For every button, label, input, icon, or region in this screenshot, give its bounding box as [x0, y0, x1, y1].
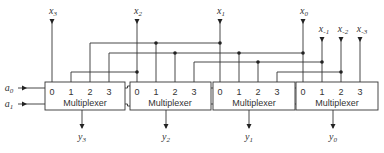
arrow-right-icon [22, 102, 27, 107]
output-lines [80, 110, 336, 129]
mux-label: Multiplexer [232, 98, 276, 108]
junction-dot [320, 60, 324, 64]
arrow-right-icon [22, 86, 27, 91]
svg-text:1: 1 [68, 87, 73, 97]
junction-dot [173, 51, 177, 55]
junction-dot [237, 51, 241, 55]
svg-text:2: 2 [255, 87, 260, 97]
arrow-down-icon [301, 19, 306, 24]
shifter-diagram: 0 1 2 3 Multiplexer 0 1 2 3 Multiplexer … [0, 0, 384, 153]
arrow-down-icon [320, 37, 325, 42]
svg-text:3: 3 [191, 87, 196, 97]
output-labels: y3 y2 y1 y0 [77, 131, 337, 144]
mux-label: Multiplexer [148, 98, 192, 108]
svg-text:0: 0 [49, 87, 54, 97]
arrow-down-icon [339, 37, 344, 42]
svg-text:x-2: x-2 [337, 23, 349, 36]
select-input-labels: a0 a1 [5, 82, 14, 111]
svg-text:1: 1 [319, 87, 324, 97]
svg-text:0: 0 [217, 87, 222, 97]
svg-text:y1: y1 [244, 131, 253, 144]
svg-text:0: 0 [300, 87, 305, 97]
arrow-down-icon [358, 37, 363, 42]
svg-text:x2: x2 [133, 5, 142, 18]
svg-text:y0: y0 [328, 131, 337, 144]
mux-label: Multiplexer [63, 98, 107, 108]
svg-text:1: 1 [153, 87, 158, 97]
svg-text:2: 2 [87, 87, 92, 97]
svg-text:x-1: x-1 [318, 23, 329, 36]
svg-text:x1: x1 [216, 5, 225, 18]
svg-text:2: 2 [172, 87, 177, 97]
svg-text:1: 1 [236, 87, 241, 97]
junction-dot [339, 70, 343, 74]
svg-text:3: 3 [274, 87, 279, 97]
wire-x-2-bus [277, 72, 341, 82]
arrow-down-icon [218, 19, 223, 24]
svg-text:x-3: x-3 [356, 23, 368, 36]
arrow-down-icon [135, 19, 140, 24]
junction-dot [301, 51, 305, 55]
arrow-down-icon [331, 124, 336, 129]
svg-text:3: 3 [357, 87, 362, 97]
wire-x1-bus [90, 43, 220, 82]
svg-text:x0: x0 [299, 5, 308, 18]
svg-text:y2: y2 [161, 131, 170, 144]
junction-dot [218, 41, 222, 45]
data-input-lines [50, 19, 363, 82]
data-input-labels: x3 x2 x1 x0 x-1 x-2 x-3 [48, 5, 368, 36]
svg-text:x3: x3 [48, 5, 57, 18]
junction-dot [154, 41, 158, 45]
svg-text:a0: a0 [5, 82, 14, 95]
svg-text:2: 2 [338, 87, 343, 97]
bus-wires [71, 43, 341, 82]
svg-text:y3: y3 [77, 131, 86, 144]
arrow-down-icon [247, 124, 252, 129]
junction-dot [135, 70, 139, 74]
arrow-down-icon [80, 124, 85, 129]
svg-text:0: 0 [134, 87, 139, 97]
junction-dot [256, 60, 260, 64]
mux-label: Multiplexer [315, 98, 359, 108]
svg-text:a1: a1 [5, 98, 14, 111]
svg-text:3: 3 [106, 87, 111, 97]
arrow-down-icon [164, 124, 169, 129]
wire-x2-bus [71, 72, 137, 82]
wire-x0-bus [109, 53, 303, 82]
arrow-down-icon [50, 19, 55, 24]
